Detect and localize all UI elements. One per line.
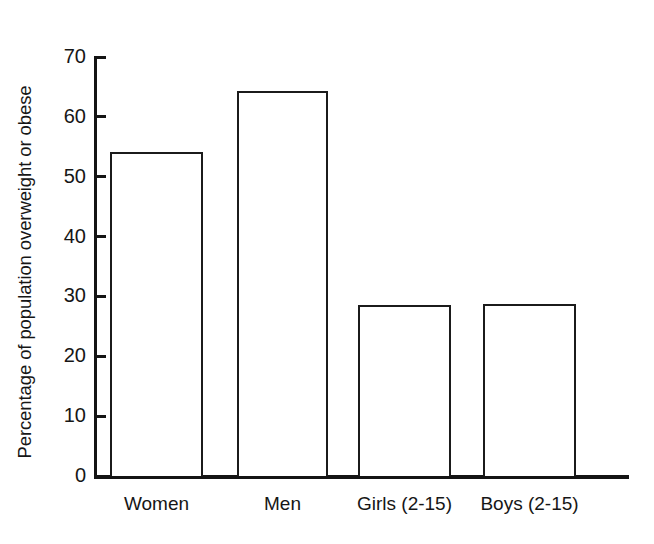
bar-chart: Percentage of population overweight or o… [0, 0, 654, 544]
y-tick-label-60: 60 [46, 106, 86, 126]
bar-boys-2-15 [483, 304, 576, 476]
y-tick-mark-10 [95, 415, 106, 418]
y-tick-label-70: 70 [46, 46, 86, 66]
y-tick-label-text: 20 [46, 345, 86, 365]
y-tick-label-text: 70 [46, 46, 86, 66]
bar-women [110, 152, 203, 476]
y-tick-mark-30 [95, 295, 106, 298]
y-tick-label-50: 50 [46, 166, 86, 186]
y-axis-title: Percentage of population overweight or o… [0, 0, 50, 544]
y-tick-mark-60 [95, 115, 106, 118]
y-tick-label-text: 60 [46, 106, 86, 126]
y-tick-label-text: 30 [46, 285, 86, 305]
y-tick-label-40: 40 [46, 226, 86, 246]
bar-men [237, 91, 328, 476]
y-tick-mark-70 [95, 56, 106, 59]
y-tick-label-30: 30 [46, 285, 86, 305]
y-tick-mark-50 [95, 175, 106, 178]
y-tick-label-0: 0 [46, 465, 86, 485]
y-tick-label-text: 50 [46, 166, 86, 186]
y-tick-label-10: 10 [46, 405, 86, 425]
x-axis-label-boys-2-15: Boys (2-15) [453, 492, 606, 516]
bar-girls-2-15 [358, 305, 451, 476]
y-tick-label-text: 10 [46, 405, 86, 425]
y-tick-label-20: 20 [46, 345, 86, 365]
y-tick-mark-20 [95, 355, 106, 358]
y-tick-mark-40 [95, 235, 106, 238]
y-tick-label-text: 40 [46, 226, 86, 246]
y-tick-label-text: 0 [46, 465, 86, 485]
y-tick-mark-0 [95, 475, 106, 478]
